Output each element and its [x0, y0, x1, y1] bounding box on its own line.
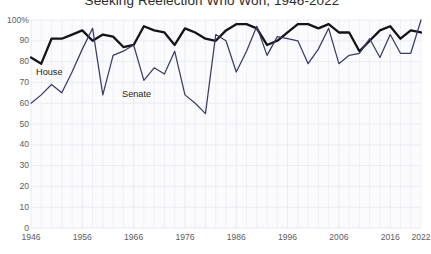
series-label-house: House [36, 68, 63, 77]
x-axis-tick-label: 2006 [329, 233, 348, 242]
x-axis-tick-label: 2022 [411, 233, 430, 242]
x-axis-tick-label: 1966 [124, 233, 143, 242]
x-axis-tick-label: 1946 [21, 233, 40, 242]
x-axis-tick-label: 1976 [175, 233, 194, 242]
x-axis-tick-label: 1956 [73, 233, 92, 242]
x-axis-tick-label: 1996 [278, 233, 297, 242]
x-axis-tick-label: 2016 [381, 233, 400, 242]
x-axis-tick-label: 1986 [227, 233, 246, 242]
series-label-senate: Senate [122, 90, 151, 99]
